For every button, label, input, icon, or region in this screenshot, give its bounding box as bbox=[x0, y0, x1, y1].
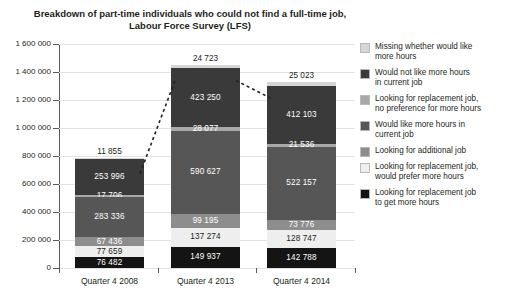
legend-item-3[interactable]: Looking for replacement job,no preferenc… bbox=[360, 94, 528, 114]
bar-segment[interactable]: 99 195 bbox=[171, 214, 240, 228]
legend-color-swatch bbox=[360, 189, 370, 199]
chart-legend: Missing whether would likemore hoursWoul… bbox=[360, 42, 528, 214]
y-axis-tick bbox=[53, 240, 59, 241]
segment-value-label: 99 195 bbox=[193, 217, 219, 225]
y-axis-tick-label: 1 000 000 bbox=[5, 124, 51, 132]
legend-item-label: Would not like more hoursin current job bbox=[375, 68, 470, 88]
bar-segment[interactable]: 128 747 bbox=[267, 230, 336, 248]
chart-title-line1: Breakdown of part-time individuals who c… bbox=[30, 8, 350, 20]
legend-color-swatch bbox=[360, 95, 370, 105]
x-axis-label-3: Quarter 4 2014 bbox=[252, 276, 352, 286]
legend-item-label: Would like more hours incurrent job bbox=[375, 120, 465, 140]
x-axis-tick bbox=[256, 268, 257, 273]
y-axis-tick bbox=[53, 44, 59, 45]
segment-value-label: 590 627 bbox=[190, 168, 220, 176]
legend-item-label: Looking for replacement jobto get more h… bbox=[375, 188, 476, 208]
legend-item-label-line2: more hours bbox=[375, 52, 416, 61]
y-axis-tick bbox=[53, 184, 59, 185]
legend-item-7[interactable]: Looking for replacement jobto get more h… bbox=[360, 188, 528, 208]
bar-segment[interactable]: 67 436 bbox=[75, 237, 144, 246]
bar-top-value-label: 24 723 bbox=[156, 54, 256, 63]
x-axis-tick bbox=[59, 268, 60, 273]
bar-top-value-label: 11 855 bbox=[60, 147, 160, 156]
legend-color-swatch bbox=[360, 163, 370, 173]
legend-color-swatch bbox=[360, 147, 370, 157]
x-axis-tick bbox=[158, 268, 159, 273]
bar-segment[interactable]: 142 788 bbox=[267, 248, 336, 268]
y-axis-tick bbox=[53, 128, 59, 129]
bar-segment[interactable]: 73 776 bbox=[267, 220, 336, 230]
x-axis-label-2: Quarter 4 2013 bbox=[156, 276, 256, 286]
y-axis-tick bbox=[53, 72, 59, 73]
chart-title: Breakdown of part-time individuals who c… bbox=[30, 8, 350, 32]
y-axis-tick-label: 600 000 bbox=[5, 180, 51, 188]
legend-item-label-line2: would prefer more hours bbox=[375, 172, 464, 181]
bar-segment[interactable]: 283 336 bbox=[75, 197, 144, 237]
legend-item-label-line2: no preference for more hours bbox=[375, 104, 481, 113]
y-axis-tick bbox=[53, 212, 59, 213]
bar-segment[interactable]: 149 937 bbox=[171, 247, 240, 268]
y-axis-tick-label: 0 bbox=[5, 264, 51, 272]
bar-segment[interactable]: 590 627 bbox=[171, 131, 240, 214]
legend-item-label: Looking for replacement job,would prefer… bbox=[375, 162, 478, 182]
segment-value-label: 77 659 bbox=[97, 248, 123, 256]
legend-color-swatch bbox=[360, 43, 370, 53]
y-axis-tick-label: 1 200 000 bbox=[5, 96, 51, 104]
x-axis-label-1: Quarter 4 2008 bbox=[60, 276, 160, 286]
bar-segment[interactable]: 77 659 bbox=[75, 246, 144, 257]
segment-value-label: 73 776 bbox=[289, 221, 315, 229]
legend-item-label: Missing whether would likemore hours bbox=[375, 42, 472, 62]
segment-value-label: 423 250 bbox=[190, 94, 220, 102]
bar-top-value-label: 25 023 bbox=[252, 71, 352, 80]
chart-container: Breakdown of part-time individuals who c… bbox=[0, 0, 530, 295]
x-axis-tick bbox=[355, 268, 356, 273]
legend-item-label: Looking for additional job bbox=[375, 146, 466, 156]
y-axis-tick-label: 200 000 bbox=[5, 236, 51, 244]
bar-segment[interactable]: 76 482 bbox=[75, 257, 144, 268]
y-axis-tick-label: 400 000 bbox=[5, 208, 51, 216]
chart-title-line2: Labour Force Survey (LFS) bbox=[30, 20, 350, 32]
segment-value-label: 149 937 bbox=[190, 253, 220, 261]
segment-value-label: 76 482 bbox=[97, 259, 123, 267]
y-axis-tick-label: 800 000 bbox=[5, 152, 51, 160]
y-axis-tick bbox=[53, 100, 59, 101]
gridline bbox=[59, 268, 355, 269]
legend-color-swatch bbox=[360, 121, 370, 131]
legend-item-label-line2: to get more hours bbox=[375, 198, 439, 207]
segment-value-label: 522 157 bbox=[286, 179, 316, 187]
gridline bbox=[59, 44, 355, 45]
legend-item-5[interactable]: Looking for additional job bbox=[360, 146, 528, 157]
y-axis-tick-label: 1 600 000 bbox=[5, 40, 51, 48]
segment-value-label: 67 436 bbox=[97, 238, 123, 246]
legend-item-4[interactable]: Would like more hours incurrent job bbox=[360, 120, 528, 140]
legend-item-2[interactable]: Would not like more hoursin current job bbox=[360, 68, 528, 88]
bar-segment[interactable]: 423 250 bbox=[171, 68, 240, 127]
y-axis-tick-label: 1 400 000 bbox=[5, 68, 51, 76]
bar-column[interactable]: 412 10321 536522 15773 776128 747142 788 bbox=[267, 82, 336, 268]
y-axis-tick bbox=[53, 156, 59, 157]
legend-item-label-line2: in current job bbox=[375, 78, 422, 87]
bar-column[interactable]: 253 99617 706283 33667 43677 65976 482 bbox=[75, 158, 144, 268]
segment-value-label: 253 996 bbox=[94, 173, 124, 181]
segment-value-label: 142 788 bbox=[286, 254, 316, 262]
legend-item-label: Looking for replacement job,no preferenc… bbox=[375, 94, 481, 114]
bar-column[interactable]: 423 25028 077590 62799 195137 274149 937 bbox=[171, 65, 240, 268]
bar-segment[interactable]: 137 274 bbox=[171, 228, 240, 247]
legend-item-1[interactable]: Missing whether would likemore hours bbox=[360, 42, 528, 62]
segment-value-label: 412 103 bbox=[286, 111, 316, 119]
bar-segment[interactable]: 522 157 bbox=[267, 147, 336, 220]
legend-item-6[interactable]: Looking for replacement job,would prefer… bbox=[360, 162, 528, 182]
legend-color-swatch bbox=[360, 69, 370, 79]
segment-value-label: 128 747 bbox=[286, 235, 316, 243]
segment-value-label: 283 336 bbox=[94, 213, 124, 221]
bar-segment[interactable]: 253 996 bbox=[75, 159, 144, 195]
legend-item-label-line2: current job bbox=[375, 130, 414, 139]
segment-value-label: 137 274 bbox=[190, 233, 220, 241]
bar-segment[interactable]: 412 103 bbox=[267, 86, 336, 144]
